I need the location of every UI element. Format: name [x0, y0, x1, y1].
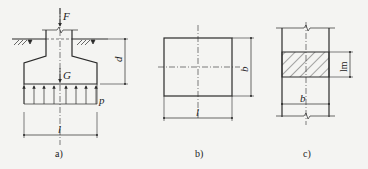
- caption-c: c): [303, 148, 311, 160]
- panel-b-plan-view: b l b): [158, 25, 254, 160]
- ground-hatch-right: [77, 40, 95, 45]
- label-F: F: [62, 10, 70, 22]
- caption-a: a): [55, 148, 63, 160]
- label-d: d: [112, 56, 124, 62]
- label-G: G: [63, 69, 71, 81]
- ground-hatch-left: [14, 40, 32, 45]
- label-lm: lm: [338, 61, 349, 72]
- hatched-strip: [282, 52, 329, 77]
- panel-a-foundation-section: F G p d l a): [12, 8, 128, 160]
- label-b: b: [238, 66, 250, 72]
- panel-c-strip-section: lm b c): [276, 22, 353, 160]
- label-l: l: [58, 123, 61, 135]
- label-p: p: [98, 94, 105, 106]
- caption-b: b): [195, 148, 203, 160]
- label-l: l: [196, 106, 199, 118]
- figure-canvas: F G p d l a) b l b): [0, 0, 368, 169]
- footing-outline: [24, 30, 97, 84]
- top-break-line: [276, 25, 335, 31]
- bottom-break-line: [276, 113, 335, 119]
- label-b: b: [300, 92, 306, 104]
